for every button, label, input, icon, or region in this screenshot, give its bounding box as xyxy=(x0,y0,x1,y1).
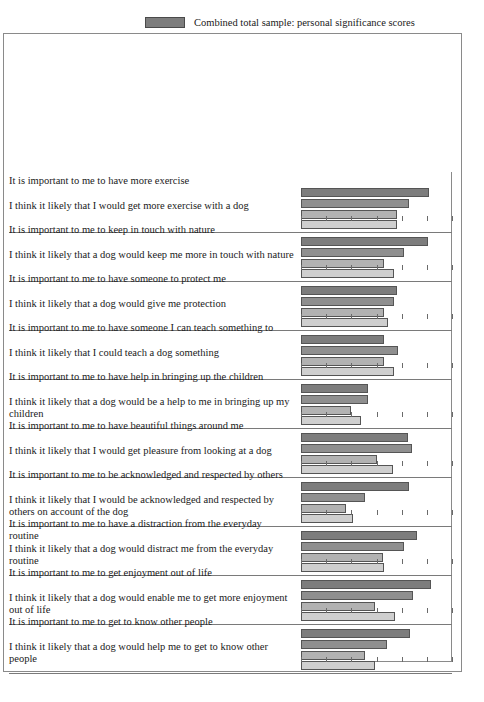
row-label-significance: It is important to me to have someone I … xyxy=(9,319,294,334)
bar-combined-total-sample xyxy=(301,433,408,442)
bar-combined-total-sample xyxy=(301,237,428,246)
plot-grid-tick-5 xyxy=(427,412,428,417)
plot-grid-tick-0 xyxy=(301,216,302,221)
plot-grid-tick-1 xyxy=(326,265,327,270)
legend-label-combined-total-sample: Combined total sample: personal signific… xyxy=(194,17,415,29)
bar-no-pets-in-household xyxy=(301,269,394,278)
bar-no-pets-in-household xyxy=(301,612,395,621)
plot-grid-tick-0 xyxy=(301,510,302,515)
bar-dog-in-household xyxy=(301,542,404,551)
plot-grid-ticks xyxy=(301,412,452,417)
legend-swatch-combined-total-sample xyxy=(145,17,185,28)
plot-grid-tick-5 xyxy=(427,559,428,564)
bar-dog-in-household xyxy=(301,199,409,208)
plot-grid-tick-6 xyxy=(452,216,453,221)
row-label-likelihood: I think it likely that a dog would enabl… xyxy=(9,589,294,616)
plot-grid-tick-6 xyxy=(452,559,453,564)
plot-grid-tick-4 xyxy=(402,265,403,270)
chart-rows: It is important to me to have more exerc… xyxy=(0,172,462,664)
row-label-significance: It is important to me to be acknowledged… xyxy=(9,466,294,481)
plot-grid-tick-0 xyxy=(301,559,302,564)
bar-combined-total-sample xyxy=(301,580,431,589)
plot-grid-tick-5 xyxy=(427,657,428,662)
plot-grid-tick-2 xyxy=(351,559,352,564)
row-label-significance: It is important to me to have a distract… xyxy=(9,515,294,542)
bar-no-pets-in-household xyxy=(301,220,397,229)
plot-grid-tick-5 xyxy=(427,461,428,466)
row-label-likelihood: I think it likely that I would be acknow… xyxy=(9,491,294,518)
bar-combined-total-sample xyxy=(301,384,368,393)
bar-combined-total-sample xyxy=(301,335,384,344)
plot-grid-tick-1 xyxy=(326,461,327,466)
plot-grid-tick-3 xyxy=(377,265,378,270)
plot-grid-tick-6 xyxy=(452,657,453,662)
row-label-likelihood: I think it likely that a dog would keep … xyxy=(9,246,294,261)
row-label-likelihood: I think it likely that a dog would help … xyxy=(9,638,294,665)
plot-grid-ticks xyxy=(301,510,452,515)
plot-grid-tick-2 xyxy=(351,314,352,319)
bar-dog-in-household xyxy=(301,493,365,502)
bar-no-pets-in-household xyxy=(301,416,361,425)
plot-grid-tick-0 xyxy=(301,461,302,466)
bar-combined-total-sample xyxy=(301,286,397,295)
plot-grid-tick-4 xyxy=(402,657,403,662)
row-label-significance: It is important to me to get enjoyment o… xyxy=(9,564,294,579)
plot-grid-tick-1 xyxy=(326,412,327,417)
plot-grid-tick-6 xyxy=(452,608,453,613)
bar-combined-total-sample xyxy=(301,531,417,540)
plot-grid-ticks xyxy=(301,216,452,221)
row-label-likelihood: I think it likely that I would get more … xyxy=(9,197,294,212)
plot-grid-tick-4 xyxy=(402,559,403,564)
plot-grid-tick-4 xyxy=(402,216,403,221)
plot-grid-ticks xyxy=(301,314,452,319)
plot-grid-ticks xyxy=(301,363,452,368)
plot-grid-tick-3 xyxy=(377,559,378,564)
plot-grid-tick-2 xyxy=(351,412,352,417)
row-label-significance: It is important to me to have beautiful … xyxy=(9,417,294,432)
row-label-likelihood: I think it likely that a dog would give … xyxy=(9,295,294,310)
plot-grid-ticks xyxy=(301,657,452,662)
row-label-likelihood: I think it likely that I could teach a d… xyxy=(9,344,294,359)
bar-dog-in-household xyxy=(301,444,412,453)
plot-grid-tick-3 xyxy=(377,657,378,662)
plot-grid-tick-2 xyxy=(351,461,352,466)
row-label-likelihood: I think it likely that I would get pleas… xyxy=(9,442,294,457)
plot-grid-tick-1 xyxy=(326,363,327,368)
plot-grid-tick-2 xyxy=(351,265,352,270)
bar-combined-total-sample xyxy=(301,188,429,197)
plot-grid-tick-0 xyxy=(301,314,302,319)
plot-grid-tick-4 xyxy=(402,608,403,613)
plot-grid-tick-6 xyxy=(452,363,453,368)
plot-grid-tick-3 xyxy=(377,216,378,221)
plot-grid-tick-5 xyxy=(427,216,428,221)
plot-grid-ticks xyxy=(301,559,452,564)
plot-grid-tick-1 xyxy=(326,559,327,564)
plot-grid-tick-1 xyxy=(326,657,327,662)
plot-grid-tick-5 xyxy=(427,608,428,613)
plot-grid-tick-2 xyxy=(351,657,352,662)
plot-grid-tick-2 xyxy=(351,216,352,221)
group-separator xyxy=(9,673,452,674)
bar-no-pets-in-household xyxy=(301,318,388,327)
bar-dog-in-household xyxy=(301,395,368,404)
plot-grid-tick-6 xyxy=(452,265,453,270)
plot-grid-tick-1 xyxy=(326,510,327,515)
plot-grid-ticks xyxy=(301,608,452,613)
legend-item-0: Combined total sample: personal signific… xyxy=(145,16,415,29)
row-label-significance: It is important to me to have someone to… xyxy=(9,270,294,285)
plot-grid-tick-0 xyxy=(301,265,302,270)
plot-grid-tick-5 xyxy=(427,314,428,319)
bar-combined-total-sample xyxy=(301,629,410,638)
row-label-significance: It is important to me to get to know oth… xyxy=(9,613,294,628)
bar-no-pets-in-household xyxy=(301,465,393,474)
plot-grid-tick-3 xyxy=(377,461,378,466)
bar-dog-in-household xyxy=(301,297,394,306)
plot-grid-tick-2 xyxy=(351,608,352,613)
row-label-likelihood: I think it likely that a dog would distr… xyxy=(9,540,294,567)
plot-grid-tick-2 xyxy=(351,510,352,515)
plot-grid-tick-5 xyxy=(427,363,428,368)
plot-grid-tick-4 xyxy=(402,412,403,417)
bar-no-pets-in-household xyxy=(301,514,353,523)
plot-grid-tick-4 xyxy=(402,461,403,466)
plot-grid-tick-4 xyxy=(402,363,403,368)
